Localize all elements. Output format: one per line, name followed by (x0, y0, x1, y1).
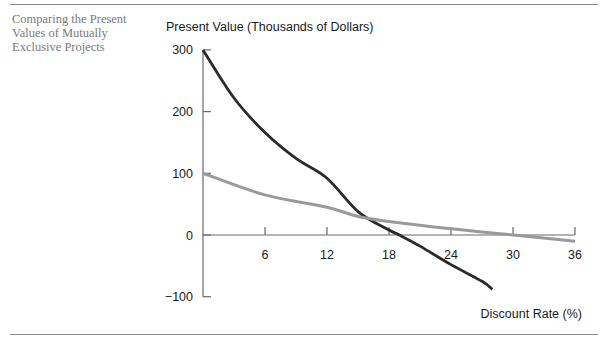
x-axis-title: Discount Rate (%) (481, 307, 582, 321)
x-tick-label: 12 (320, 248, 334, 262)
x-tick-label: 30 (506, 248, 520, 262)
chart: Present Value (Thousands of Dollars) Dis… (0, 0, 603, 341)
y-tick-label: 200 (172, 105, 193, 119)
x-tick-label: 18 (382, 248, 396, 262)
x-tick-label: 6 (262, 248, 269, 262)
axes: 3002001000−10061218243036 (165, 43, 582, 304)
y-tick-label: 300 (172, 43, 193, 57)
y-axis-title: Present Value (Thousands of Dollars) (166, 20, 374, 34)
x-tick-label: 24 (444, 248, 458, 262)
y-tick-label: 0 (186, 229, 193, 243)
y-tick-label: −100 (165, 290, 193, 304)
y-tick-label: 100 (172, 167, 193, 181)
x-tick-label: 36 (568, 248, 582, 262)
